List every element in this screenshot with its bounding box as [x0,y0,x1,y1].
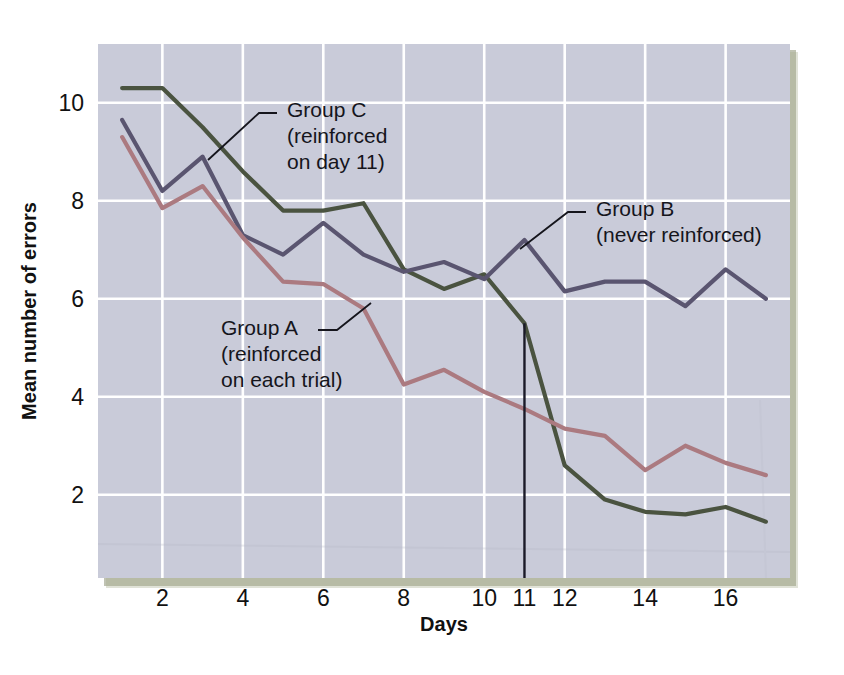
annotation-line: (never reinforced) [596,223,762,246]
annotation-line: on day 11) [287,150,385,173]
annotation-line: (reinforced [287,124,387,147]
y-axis-tick-labels: 246810 [58,90,84,508]
y-tick-label: 2 [71,482,84,508]
line-chart: 24681011121416 246810 Days Mean number o… [0,0,844,675]
annotation-line: (reinforced [221,342,321,365]
annotation-line: on each trial) [221,368,342,391]
x-tick-label: 4 [236,585,249,611]
x-tick-label: 16 [713,585,739,611]
x-axis-title: Days [420,613,468,635]
x-axis-tick-labels: 24681011121416 [156,585,738,611]
y-tick-label: 4 [71,384,84,410]
x-tick-label: 11 [513,585,537,611]
x-tick-label: 12 [552,585,578,611]
annotation-line: Group B [596,197,674,220]
x-tick-label: 8 [397,585,410,611]
x-tick-label: 10 [471,585,497,611]
y-tick-label: 6 [71,286,84,312]
y-axis-title: Mean number of errors [18,202,40,420]
y-tick-label: 8 [71,188,84,214]
x-tick-label: 6 [317,585,330,611]
figure-container: 24681011121416 246810 Days Mean number o… [0,0,844,675]
x-tick-label: 14 [632,585,658,611]
annotation-line: Group A [221,316,298,339]
annotation-line: Group C [287,98,366,121]
x-tick-label: 2 [156,585,169,611]
y-tick-label: 10 [58,90,84,116]
